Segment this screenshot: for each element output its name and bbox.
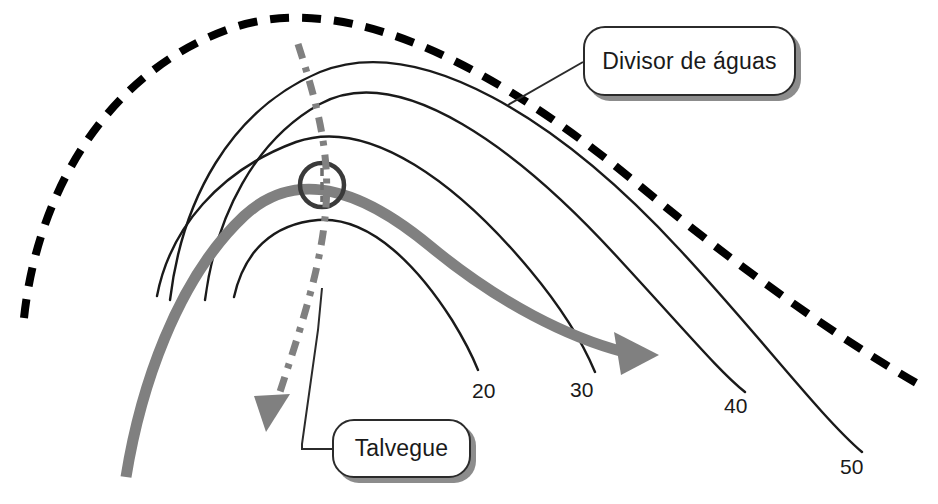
flow-arrow-head xyxy=(614,332,659,375)
contour-line-20 xyxy=(234,220,478,370)
contour-label-40: 40 xyxy=(724,395,747,416)
callout-divisor-label: Divisor de águas xyxy=(602,48,777,75)
contour-line-50 xyxy=(170,62,862,452)
thalweg-group xyxy=(254,44,327,432)
contour-line-40 xyxy=(205,93,745,392)
leader-line-divisor xyxy=(508,62,583,105)
contour-label-30: 30 xyxy=(570,379,593,400)
callout-talvegue-label: Talvegue xyxy=(355,435,449,462)
callout-divisor-de-aguas[interactable]: Divisor de águas xyxy=(583,26,796,96)
contour-label-50: 50 xyxy=(840,456,863,477)
callout-talvegue[interactable]: Talvegue xyxy=(332,419,471,478)
contour-map-svg xyxy=(0,0,938,504)
diagram-canvas: 20 30 40 50 Divisor de águas Talvegue xyxy=(0,0,938,504)
thalweg-arrow-head xyxy=(254,394,290,432)
contour-label-20: 20 xyxy=(472,380,495,401)
